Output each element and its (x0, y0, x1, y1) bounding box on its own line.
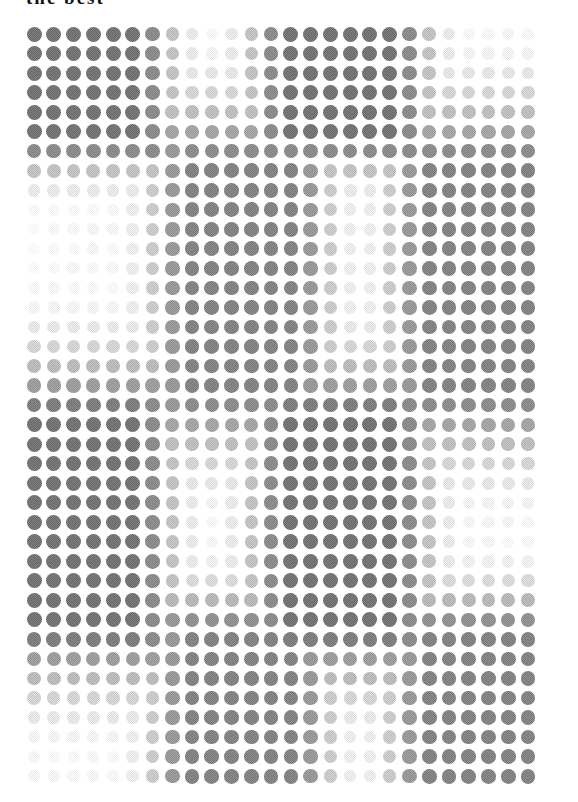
matrix-dot (27, 476, 42, 491)
matrix-dot (264, 202, 279, 217)
matrix-dot (343, 495, 358, 510)
matrix-dot (422, 574, 436, 588)
matrix-dot (264, 300, 279, 315)
matrix-dot (106, 105, 121, 120)
matrix-dot (185, 281, 200, 296)
matrix-dot (165, 300, 179, 314)
matrix-dot (343, 652, 357, 666)
matrix-dot (186, 28, 199, 41)
matrix-dot (126, 203, 139, 216)
matrix-dot (362, 573, 377, 588)
matrix-dot (324, 262, 337, 275)
matrix-dot (86, 534, 101, 549)
matrix-dot (442, 163, 457, 178)
matrix-dot (225, 593, 239, 607)
matrix-dot (107, 184, 120, 197)
matrix-dot (27, 437, 42, 452)
matrix-dot (482, 555, 495, 568)
matrix-dot (244, 378, 259, 393)
matrix-dot (165, 144, 179, 158)
matrix-dot (186, 496, 199, 509)
matrix-dot (324, 281, 337, 294)
matrix-dot (126, 321, 139, 334)
matrix-dot (461, 339, 476, 354)
matrix-dot (205, 418, 219, 432)
matrix-dot (481, 652, 496, 667)
matrix-dot (27, 124, 42, 139)
matrix-dot (244, 418, 258, 432)
matrix-dot (422, 613, 437, 628)
matrix-dot (145, 515, 160, 530)
matrix-dot (303, 66, 318, 81)
matrix-dot (522, 497, 534, 509)
matrix-dot (206, 536, 218, 548)
matrix-dot (204, 671, 219, 686)
matrix-dot (521, 437, 535, 451)
matrix-dot (482, 536, 494, 548)
matrix-dot (86, 554, 101, 569)
matrix-dot (283, 554, 298, 569)
matrix-dot (106, 593, 121, 608)
matrix-dot (383, 320, 396, 333)
matrix-dot (86, 124, 101, 139)
matrix-dot (501, 105, 515, 119)
matrix-dot (106, 417, 121, 432)
matrix-dot (344, 243, 357, 256)
matrix-dot (422, 632, 437, 647)
matrix-dot (27, 378, 41, 392)
matrix-dot (383, 164, 397, 178)
matrix-dot (185, 261, 200, 276)
matrix-dot (402, 769, 416, 783)
matrix-dot (283, 105, 298, 120)
matrix-dot (67, 301, 79, 313)
matrix-dot (264, 632, 279, 647)
matrix-dot (482, 28, 494, 40)
matrix-dot (402, 300, 416, 314)
matrix-dot (48, 282, 60, 294)
matrix-dot (225, 574, 238, 587)
matrix-dot (224, 652, 239, 667)
matrix-dot (383, 652, 397, 666)
matrix-dot (87, 243, 99, 255)
matrix-dot (402, 281, 416, 295)
matrix-dot (303, 495, 318, 510)
matrix-dot (482, 67, 495, 80)
matrix-dot (106, 691, 119, 704)
matrix-dot (303, 573, 318, 588)
matrix-dot (382, 573, 397, 588)
matrix-dot (86, 652, 100, 666)
matrix-dot (264, 769, 279, 784)
matrix-dot (443, 47, 456, 60)
matrix-dot (206, 516, 218, 528)
matrix-dot (165, 398, 179, 412)
matrix-dot (344, 770, 357, 783)
matrix-dot (303, 203, 317, 217)
matrix-dot (521, 359, 536, 374)
matrix-dot (323, 85, 338, 100)
matrix-dot (145, 632, 160, 647)
matrix-dot (382, 417, 397, 432)
matrix-dot (165, 105, 179, 119)
matrix-dot (501, 241, 516, 256)
matrix-dot (364, 711, 377, 724)
matrix-dot (362, 437, 377, 452)
matrix-dot (343, 632, 358, 647)
matrix-dot (362, 46, 377, 61)
matrix-dot (284, 241, 299, 256)
matrix-dot (461, 222, 476, 237)
matrix-dot (66, 398, 81, 413)
matrix-dot (362, 105, 377, 120)
dot-matrix-plot (0, 0, 578, 802)
matrix-dot (462, 86, 475, 99)
matrix-dot (402, 613, 417, 628)
matrix-dot (442, 769, 457, 784)
matrix-dot (461, 632, 476, 647)
matrix-dot (86, 105, 101, 120)
matrix-dot (463, 47, 475, 59)
matrix-dot (67, 731, 79, 743)
matrix-dot (323, 456, 338, 471)
matrix-dot (402, 105, 417, 120)
matrix-dot (264, 320, 279, 335)
matrix-dot (422, 398, 437, 413)
matrix-dot (146, 262, 159, 275)
